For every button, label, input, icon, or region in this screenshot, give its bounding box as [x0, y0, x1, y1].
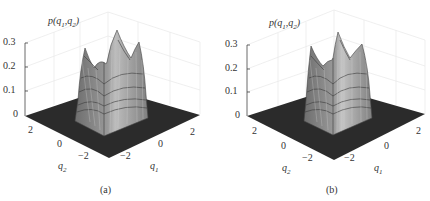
- q1-tick-label: 0: [158, 139, 163, 149]
- q2-tick-label: 2: [252, 126, 257, 136]
- q1-tick-label: 2: [190, 127, 195, 137]
- z-tick-label: 0.1: [225, 86, 238, 96]
- q1-tick-label: 2: [416, 126, 421, 136]
- q2-tick-label: 2: [28, 125, 33, 135]
- surface-plot-a: [0, 0, 215, 201]
- z-tick-label: 0.3: [225, 39, 238, 49]
- z-tick-label: 0.2: [3, 61, 16, 71]
- q2-tick-label: 0: [281, 141, 286, 151]
- z-tick-label: 0.1: [3, 85, 16, 95]
- panel-caption: (b): [326, 184, 338, 195]
- q2-tick-label: 0: [57, 139, 62, 149]
- q1-tick-label: −2: [344, 153, 355, 163]
- z-axis-title: p(q1,q2): [269, 18, 300, 32]
- z-tick-label: 0.2: [225, 63, 238, 73]
- q2-axis-label: q2: [282, 163, 291, 177]
- density-surface: [304, 32, 372, 135]
- z-axis-title: p(q1,q2): [48, 16, 79, 30]
- z-tick-label: 0.3: [3, 37, 16, 47]
- q1-axis-label: q1: [150, 161, 159, 175]
- q1-tick-label: −2: [120, 151, 131, 161]
- q2-tick-label: −2: [302, 153, 313, 163]
- panel-b: p(q1,q2) 0.3 0.2 0.1 0 2 0 −2 −2 0 2 q2 …: [222, 0, 430, 201]
- z-tick-label: 0: [235, 110, 240, 120]
- surface-plot-b: [222, 0, 430, 201]
- panel-caption: (a): [100, 184, 111, 195]
- q1-axis-label: q1: [374, 163, 383, 177]
- z-tick-label: 0: [13, 109, 18, 119]
- panel-a: p(q1,q2) 0.3 0.2 0.1 0 2 0 −2 −2 0 2 q2 …: [0, 0, 215, 201]
- q2-tick-label: −2: [78, 151, 89, 161]
- q2-axis-label: q2: [58, 161, 67, 175]
- q1-tick-label: 0: [384, 141, 389, 151]
